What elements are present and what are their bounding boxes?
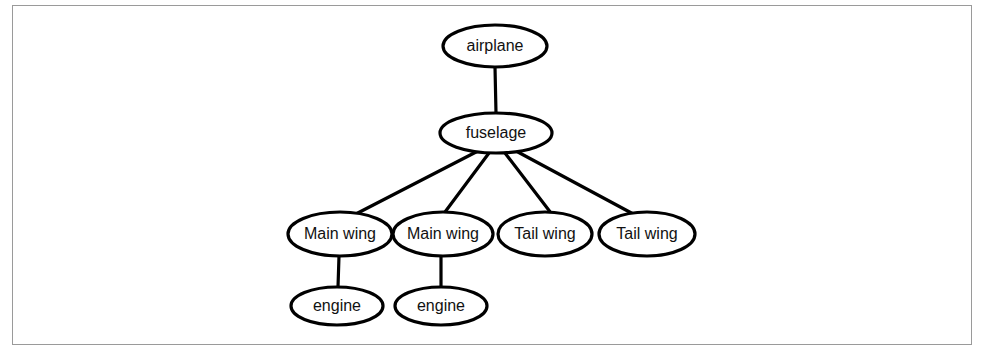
node-label-engine2: engine: [417, 297, 465, 314]
edge-fuselage-to-tailwing2: [516, 151, 637, 216]
node-mainwing2[interactable]: Main wing: [393, 212, 493, 256]
node-fuselage[interactable]: fuselage: [440, 113, 552, 153]
edge-airplane-to-fuselage: [495, 67, 496, 113]
node-label-fuselage: fuselage: [466, 124, 527, 141]
node-mainwing1[interactable]: Main wing: [288, 212, 392, 256]
edge-fuselage-to-mainwing2: [445, 153, 489, 212]
edge-mainwing1-to-engine1: [338, 256, 339, 287]
edge-fuselage-to-mainwing1: [350, 151, 478, 217]
edges-group: [338, 67, 637, 287]
edge-fuselage-to-tailwing1: [505, 153, 551, 213]
node-airplane[interactable]: airplane: [443, 25, 547, 67]
tree-diagram: airplanefuselageMain wingMain wingTail w…: [0, 0, 981, 356]
node-tailwing2[interactable]: Tail wing: [599, 212, 695, 256]
node-label-airplane: airplane: [467, 37, 524, 54]
nodes-group: airplanefuselageMain wingMain wingTail w…: [288, 25, 695, 325]
node-tailwing1[interactable]: Tail wing: [498, 212, 592, 256]
node-label-mainwing2: Main wing: [407, 225, 479, 242]
node-engine1[interactable]: engine: [291, 287, 383, 325]
node-label-mainwing1: Main wing: [304, 225, 376, 242]
node-label-tailwing2: Tail wing: [616, 225, 677, 242]
node-label-tailwing1: Tail wing: [514, 225, 575, 242]
node-label-engine1: engine: [313, 297, 361, 314]
node-engine2[interactable]: engine: [395, 287, 487, 325]
